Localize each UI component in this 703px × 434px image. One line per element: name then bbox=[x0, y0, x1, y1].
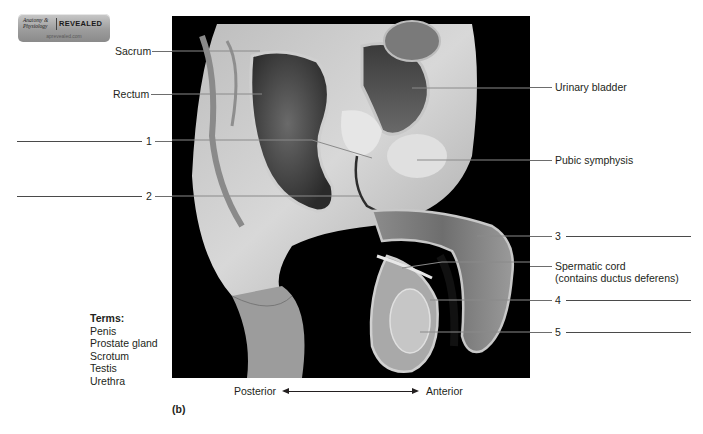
label-rectum: Rectum bbox=[113, 88, 149, 100]
term-item: Testis bbox=[90, 362, 158, 375]
leader-4 bbox=[530, 300, 552, 301]
label-spermatic-cord-text: Spermatic cord bbox=[555, 260, 626, 272]
leader-rectum bbox=[151, 94, 172, 95]
label-spermatic-cord: Spermatic cord (contains ductus deferens… bbox=[555, 260, 679, 284]
logo-url: aprevealed.com bbox=[18, 33, 110, 39]
ap-revealed-logo: Anatomy & Physiology REVEALED aprevealed… bbox=[18, 14, 110, 42]
label-spermatic-cord-subtext: (contains ductus deferens) bbox=[555, 272, 679, 284]
label-number-4: 4 bbox=[555, 294, 561, 306]
term-item: Prostate gland bbox=[90, 337, 158, 350]
leader-1 bbox=[155, 141, 172, 142]
label-number-3: 3 bbox=[555, 230, 561, 242]
orientation-anterior: Anterior bbox=[426, 385, 463, 397]
orientation-arrow bbox=[284, 391, 416, 392]
terms-heading: Terms: bbox=[90, 312, 158, 325]
label-sacrum: Sacrum bbox=[115, 45, 151, 57]
term-item: Scrotum bbox=[90, 350, 158, 363]
leader-3 bbox=[530, 236, 552, 237]
leader-2 bbox=[155, 196, 172, 197]
leader-pubic-symphysis bbox=[530, 160, 552, 161]
orientation-posterior: Posterior bbox=[234, 385, 276, 397]
label-number-1: 1 bbox=[146, 135, 152, 147]
term-item: Penis bbox=[90, 325, 158, 338]
logo-line2: Physiology bbox=[23, 23, 47, 29]
terms-list: Terms: Penis Prostate gland Scrotum Test… bbox=[90, 312, 158, 387]
logo-brand: REVEALED bbox=[59, 19, 102, 28]
logo-ap-text: Anatomy & Physiology bbox=[23, 18, 53, 29]
answer-line-3[interactable] bbox=[566, 236, 691, 237]
label-urinary-bladder: Urinary bladder bbox=[555, 81, 627, 93]
leader-spermatic-cord bbox=[530, 266, 552, 267]
logo-separator bbox=[56, 18, 57, 30]
leader-5 bbox=[530, 332, 552, 333]
label-pubic-symphysis: Pubic symphysis bbox=[555, 154, 633, 166]
label-number-2: 2 bbox=[146, 190, 152, 202]
answer-line-5[interactable] bbox=[566, 332, 691, 333]
term-item: Urethra bbox=[90, 375, 158, 388]
leader-urinary-bladder bbox=[530, 87, 552, 88]
leader-sacrum bbox=[152, 51, 172, 52]
panel-label: (b) bbox=[172, 403, 185, 415]
sagittal-section-photo bbox=[172, 16, 530, 378]
answer-line-2[interactable] bbox=[17, 196, 142, 197]
label-number-5: 5 bbox=[555, 326, 561, 338]
answer-line-4[interactable] bbox=[566, 300, 691, 301]
answer-line-1[interactable] bbox=[17, 141, 142, 142]
arrow-right-icon bbox=[412, 388, 419, 394]
